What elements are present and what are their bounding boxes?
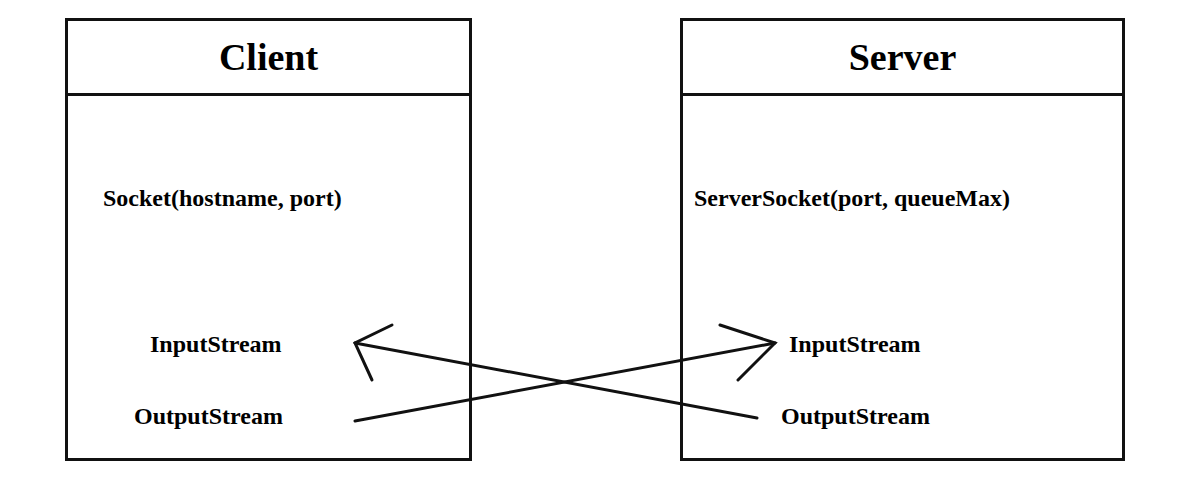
client-title: Client <box>68 21 469 96</box>
client-output-stream: OutputStream <box>134 403 283 430</box>
server-input-stream: InputStream <box>789 331 921 358</box>
client-input-stream: InputStream <box>150 331 282 358</box>
client-box: Client <box>65 18 472 461</box>
client-socket-constructor: Socket(hostname, port) <box>103 185 342 212</box>
server-output-stream: OutputStream <box>781 403 930 430</box>
server-socket-constructor: ServerSocket(port, queueMax) <box>694 185 1010 212</box>
server-title: Server <box>683 21 1122 96</box>
server-box: Server <box>680 18 1125 461</box>
